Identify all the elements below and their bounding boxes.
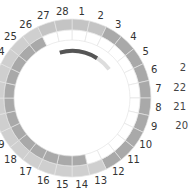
day-label-2: 2 [98,10,104,21]
day-label-5: 5 [142,46,148,57]
inner-segment-day-21[interactable] [4,98,15,113]
day-label-25: 25 [4,31,17,42]
day-label-27: 27 [37,10,50,21]
day-label-9: 9 [151,121,157,132]
inner-segment-day-22[interactable] [4,83,15,98]
day-label-26: 26 [19,19,32,30]
inner-segment-day-28[interactable] [57,30,72,41]
day-label-18: 18 [4,154,17,165]
side-label-22: 22 [173,82,186,93]
day-label-13: 13 [94,175,107,186]
progress-arc [60,51,109,69]
day-label-14: 14 [75,179,88,190]
progress-arc-fill [60,51,97,58]
day-label-1: 1 [79,6,85,17]
day-label-12: 12 [112,166,125,177]
day-label-6: 6 [151,64,157,75]
day-label-3: 3 [115,19,121,30]
day-label-11: 11 [127,154,140,165]
inner-segment-day-15[interactable] [57,155,72,166]
day-label-16: 16 [37,175,50,186]
day-label-4: 4 [130,31,136,42]
day-label-28: 28 [56,6,69,17]
inner-segment-day-7[interactable] [129,83,140,98]
day-label-19: 19 [0,139,5,150]
day-label-24: 24 [0,46,5,57]
cycle-wheel: 1234567891011121314151617181920212223242… [0,0,189,193]
side-label-21: 21 [173,101,186,112]
day-label-17: 17 [19,166,32,177]
inner-segment-day-8[interactable] [129,98,140,113]
side-label-20: 20 [175,120,188,131]
inner-segment-day-1[interactable] [72,30,87,41]
day-label-8: 8 [155,102,161,113]
side-label-2: 2 [180,62,186,73]
side-wheel-labels: 2222120 [173,62,188,131]
day-label-15: 15 [56,179,69,190]
inner-segment-day-14[interactable] [72,155,87,166]
day-label-10: 10 [139,139,152,150]
day-label-7: 7 [155,83,161,94]
